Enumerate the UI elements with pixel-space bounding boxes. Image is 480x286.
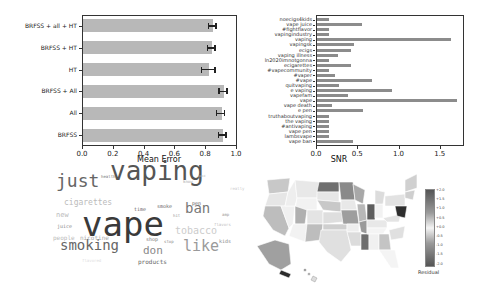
- y-tick: [313, 55, 315, 56]
- colorbar-tick-label: +1.0: [436, 206, 445, 210]
- y-tick: [313, 81, 315, 82]
- y-tick: [313, 96, 315, 97]
- word-cloud: vapevapingjustsmokinglikebantobaccodonci…: [0, 0, 250, 286]
- x-tick-label: 0.5: [352, 150, 363, 158]
- word-cloud-word: like: [183, 239, 219, 254]
- word-cloud-word: nicotine: [80, 235, 109, 241]
- snr-bar: [317, 64, 351, 67]
- word-cloud-word: flavored: [82, 259, 101, 263]
- x-tick: [440, 146, 441, 149]
- word-cloud-word: products: [138, 259, 167, 265]
- snr-bar: [317, 125, 329, 128]
- colorbar-tick-label: -1.5: [436, 252, 443, 256]
- word-cloud-word: kids: [219, 239, 231, 244]
- snr-bar: [317, 33, 329, 36]
- snr-bar: [317, 94, 348, 97]
- y-tick: [313, 91, 315, 92]
- colorbar-tick-label: -2.0: [436, 262, 443, 266]
- word-cloud-word: pen: [192, 201, 201, 206]
- y-tick: [313, 35, 315, 36]
- snr-chart: noecigs4kidsvape juice#fightflavorvaping…: [240, 0, 480, 165]
- colorbar-tick-label: -0.5: [436, 234, 443, 238]
- y-tick: [313, 30, 315, 31]
- x-tick-label: 1.5: [434, 150, 445, 158]
- category-label: vape ban: [289, 139, 312, 144]
- snr-bar: [317, 23, 362, 26]
- word-cloud-word: time: [134, 207, 146, 212]
- y-tick: [313, 136, 315, 137]
- word-cloud-word: tobacco: [175, 226, 217, 236]
- snr-bar: [317, 38, 451, 41]
- y-tick: [313, 111, 315, 112]
- y-tick: [313, 60, 315, 61]
- word-cloud-word: shop: [146, 237, 158, 242]
- y-tick: [313, 75, 315, 76]
- x-tick: [357, 146, 358, 149]
- snr-bar: [317, 89, 392, 92]
- snr-bar: [317, 104, 332, 107]
- y-tick: [313, 121, 315, 122]
- snr-bar: [317, 130, 329, 133]
- x-tick: [316, 146, 317, 149]
- y-tick: [313, 116, 315, 117]
- y-tick: [313, 45, 315, 46]
- word-cloud-word: smoke: [157, 204, 172, 209]
- word-cloud-word: know: [183, 180, 193, 184]
- word-cloud-word: hit: [173, 214, 180, 218]
- y-tick: [313, 65, 315, 66]
- y-tick: [313, 40, 315, 41]
- y-tick: [313, 106, 315, 107]
- word-cloud-word: don: [143, 245, 163, 256]
- colorbar-tick-label: +0.5: [436, 216, 445, 220]
- y-tick: [313, 131, 315, 132]
- x-tick-label: 0.0: [310, 150, 321, 158]
- y-tick: [313, 141, 315, 142]
- y-tick: [313, 20, 315, 21]
- word-cloud-word: just: [56, 172, 99, 190]
- x-tick-label: 1.0: [393, 150, 404, 158]
- snr-bar: [317, 135, 329, 138]
- y-tick: [313, 126, 315, 127]
- snr-bar: [317, 120, 329, 123]
- snr-xlabel: SNR: [331, 155, 348, 164]
- snr-bar: [317, 84, 339, 87]
- snr-bar: [317, 69, 329, 72]
- y-tick: [313, 86, 315, 87]
- word-cloud-word: health: [101, 175, 115, 179]
- colorbar-tick-label: +0.0: [436, 225, 445, 229]
- snr-bar: [317, 28, 329, 31]
- colorbar-tick-label: +1.5: [436, 197, 445, 201]
- snr-bar: [317, 59, 329, 62]
- y-tick: [313, 70, 315, 71]
- snr-bar: [317, 54, 338, 57]
- colorbar: [425, 189, 435, 267]
- x-tick: [399, 146, 400, 149]
- y-tick: [313, 101, 315, 102]
- colorbar-label: Residual: [418, 269, 439, 275]
- snr-bar: [317, 74, 335, 77]
- snr-bar: [317, 99, 457, 102]
- y-tick: [313, 25, 315, 26]
- snr-bar: [317, 115, 329, 118]
- word-cloud-word: people: [53, 235, 75, 241]
- snr-bar: [317, 140, 353, 143]
- word-cloud-word: juice: [57, 224, 72, 229]
- word-cloud-word: flavors: [214, 223, 231, 227]
- us-residual-map: +2.0+1.5+1.0+0.5+0.0-0.5-1.0-1.5-2.0 Res…: [255, 170, 480, 286]
- word-cloud-word: good: [198, 175, 205, 178]
- snr-bar: [317, 49, 351, 52]
- y-tick: [313, 50, 315, 51]
- word-cloud-word: cigarettes: [64, 199, 112, 207]
- colorbar-tick-label: +2.0: [436, 188, 445, 192]
- snr-bar: [317, 18, 329, 21]
- word-cloud-word: new: [56, 212, 69, 219]
- snr-bar: [317, 43, 354, 46]
- colorbar-tick-label: -1.0: [436, 243, 443, 247]
- word-cloud-word: really: [230, 187, 244, 191]
- snr-bar: [317, 79, 372, 82]
- word-cloud-word: amp: [222, 213, 229, 217]
- snr-bar: [317, 109, 363, 112]
- word-cloud-word: stop: [164, 240, 174, 244]
